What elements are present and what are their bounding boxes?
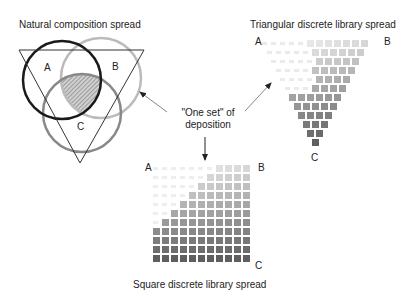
library-cell	[171, 228, 178, 235]
library-cell	[162, 246, 169, 253]
library-cell	[234, 210, 241, 217]
library-cell	[225, 210, 232, 217]
library-cell	[189, 201, 196, 208]
library-cell	[243, 210, 250, 217]
library-cell	[162, 219, 169, 226]
library-cell	[171, 237, 178, 244]
library-cell	[153, 212, 158, 215]
library-cell	[189, 167, 194, 170]
library-cell	[162, 212, 167, 215]
library-cell	[189, 219, 196, 226]
library-cell	[234, 174, 241, 181]
library-cell	[216, 219, 223, 226]
library-cell	[189, 237, 196, 244]
library-cell	[225, 255, 232, 262]
library-cell	[180, 167, 185, 170]
library-cell	[216, 183, 223, 190]
library-cell	[207, 167, 212, 170]
library-cell	[153, 185, 158, 188]
library-cell	[225, 237, 232, 244]
library-cell	[225, 174, 232, 181]
library-cell	[198, 255, 205, 262]
library-cell	[216, 174, 223, 181]
library-cell	[198, 237, 205, 244]
library-cell	[225, 219, 232, 226]
library-cell	[243, 219, 250, 226]
library-cell	[216, 210, 223, 217]
library-cell	[171, 255, 178, 262]
library-cell	[198, 219, 205, 226]
library-cell	[162, 167, 167, 170]
library-cell	[162, 185, 167, 188]
library-cell	[189, 255, 196, 262]
library-cell	[153, 194, 158, 197]
library-cell	[207, 228, 214, 235]
library-cell	[207, 219, 214, 226]
library-cell	[153, 167, 158, 170]
library-cell	[162, 176, 167, 179]
library-cell	[180, 246, 187, 253]
library-cell	[234, 237, 241, 244]
library-cell	[180, 201, 187, 208]
library-cell	[162, 237, 169, 244]
library-cell	[234, 192, 241, 199]
library-cell	[180, 255, 187, 262]
library-cell	[162, 228, 169, 235]
library-cell	[234, 219, 241, 226]
library-cell	[207, 237, 214, 244]
library-cell	[198, 210, 205, 217]
library-cell	[171, 176, 176, 179]
library-cell	[234, 255, 241, 262]
library-cell	[153, 246, 160, 253]
library-cell	[189, 210, 196, 217]
library-cell	[153, 221, 158, 224]
library-cell	[171, 203, 176, 206]
library-cell	[216, 246, 223, 253]
library-cell	[234, 228, 241, 235]
library-cell	[243, 174, 250, 181]
library-cell	[207, 246, 214, 253]
library-cell	[198, 183, 205, 190]
library-cell	[189, 246, 196, 253]
square-library-grid	[0, 0, 413, 297]
library-cell	[198, 192, 205, 199]
library-cell	[216, 255, 223, 262]
library-cell	[198, 167, 203, 170]
library-cell	[180, 228, 187, 235]
library-cell	[189, 176, 194, 179]
library-cell	[216, 192, 223, 199]
library-cell	[243, 246, 250, 253]
library-cell	[216, 201, 223, 208]
library-cell	[189, 228, 196, 235]
library-cell	[180, 219, 187, 226]
library-cell	[243, 201, 250, 208]
library-cell	[207, 192, 214, 199]
library-cell	[180, 185, 185, 188]
library-cell	[243, 228, 250, 235]
library-cell	[234, 165, 241, 172]
library-cell	[225, 183, 232, 190]
library-cell	[198, 246, 205, 253]
library-cell	[234, 183, 241, 190]
library-cell	[207, 255, 214, 262]
library-cell	[198, 228, 205, 235]
library-cell	[153, 237, 160, 244]
library-cell	[216, 237, 223, 244]
library-cell	[243, 237, 250, 244]
library-cell	[153, 255, 160, 262]
library-cell	[189, 185, 194, 188]
library-cell	[225, 192, 232, 199]
library-cell	[171, 210, 178, 217]
library-cell	[180, 210, 187, 217]
library-cell	[243, 255, 250, 262]
library-cell	[171, 246, 178, 253]
library-cell	[162, 255, 169, 262]
library-cell	[180, 194, 185, 197]
library-cell	[207, 183, 214, 190]
library-cell	[180, 237, 187, 244]
library-cell	[225, 165, 232, 172]
library-cell	[171, 185, 176, 188]
library-cell	[171, 167, 176, 170]
library-cell	[153, 176, 158, 179]
library-cell	[153, 228, 160, 235]
